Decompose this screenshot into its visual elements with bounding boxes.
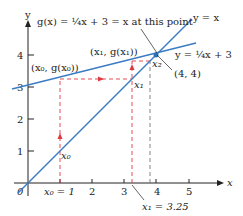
point-label-x1: x₁: [134, 79, 144, 90]
y-tick-label: 4: [17, 50, 23, 61]
identity-line-label: y = x: [192, 12, 219, 23]
x1-axis-annotation: x₁ = 3.25: [142, 201, 189, 212]
x-axis-arrow-icon: [217, 180, 224, 186]
point-label-x1-gx1: (x₁, g(x₁)): [90, 46, 138, 57]
y-axis-label: y: [24, 9, 31, 20]
right-arrow-icon: [98, 77, 104, 82]
point-label-x0-gx0: (x₀, g(x₀)): [31, 62, 79, 73]
title-leader-line: [141, 29, 157, 53]
point-label-x0: x₀: [61, 150, 71, 161]
x-tick-label: 4: [154, 186, 160, 197]
fixed-point-marker: [154, 53, 159, 58]
y-tick-label: 1: [17, 146, 23, 157]
x0-axis-annotation: x₀ = 1: [44, 186, 75, 197]
x-tick-label: 5: [186, 186, 192, 197]
g-line-label: y = ¼x + 3: [174, 49, 232, 60]
x-tick-label: 2: [89, 186, 95, 197]
x-tick-label: 3: [121, 186, 127, 197]
title-annotation: g(x) = ¼x + 3 = x at this point: [37, 16, 193, 27]
up-arrow-icon: [58, 133, 63, 139]
y-axis-arrow-icon: [25, 20, 31, 27]
y-tick-label: 2: [17, 114, 23, 125]
point-label-fixed: (4, 4): [174, 68, 201, 79]
point-label-x2: x₂: [152, 58, 162, 69]
up-arrow-icon: [130, 64, 135, 70]
x-axis-label: x: [227, 177, 233, 188]
x1-leader-line: [132, 185, 144, 200]
fixed-point-iteration-diagram: x y 0 2 3 4 5 1 2 3 4 g(x) = ¼x + 3 = x …: [0, 0, 243, 216]
